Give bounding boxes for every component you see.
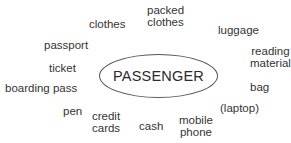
word-line: mobile (179, 114, 213, 126)
center-label: PASSENGER (99, 54, 218, 98)
word-line: phone (179, 126, 213, 138)
word-cash: cash (139, 120, 163, 132)
word-luggage: luggage (218, 24, 259, 36)
word-line: clothes (89, 18, 125, 30)
word-line: boarding pass (5, 82, 77, 94)
word-line: packed (147, 4, 184, 16)
word-boarding-pass: boarding pass (5, 82, 77, 94)
word-line: reading (250, 45, 291, 57)
word-pen: pen (63, 105, 82, 117)
word-line: (laptop) (220, 102, 259, 114)
word-line: material (250, 57, 291, 69)
word-passport: passport (44, 39, 88, 51)
word-line: cards (92, 122, 120, 134)
word-clothes: clothes (89, 18, 125, 30)
word-line: ticket (49, 62, 76, 74)
word-line: credit (92, 110, 120, 122)
word-line: clothes (147, 16, 184, 28)
word-laptop: (laptop) (220, 102, 259, 114)
word-reading-material: reading material (250, 45, 291, 69)
word-line: cash (139, 120, 163, 132)
word-line: pen (63, 105, 82, 117)
word-line: bag (250, 81, 269, 93)
word-line: passport (44, 39, 88, 51)
word-packed-clothes: packed clothes (147, 4, 184, 28)
word-credit-cards: credit cards (92, 110, 120, 134)
word-line: luggage (218, 24, 259, 36)
word-bag: bag (250, 81, 269, 93)
word-mobile-phone: mobile phone (179, 114, 213, 138)
word-ticket: ticket (49, 62, 76, 74)
